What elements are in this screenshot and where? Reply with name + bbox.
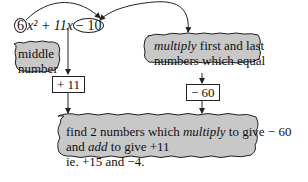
product-value-box: − 60 xyxy=(186,84,220,101)
arrow-to-multiply-cloud xyxy=(154,2,188,32)
constant-c-circled: − 10 xyxy=(73,18,104,33)
expression-middle: x² + 11x xyxy=(27,18,73,33)
middle-number-label: middle number xyxy=(18,46,58,76)
coefficient-a-circled: 6 xyxy=(14,18,27,33)
arrow-from-right-to-c xyxy=(100,2,154,20)
multiply-instruction: multiply first and last numbers which eq… xyxy=(154,38,265,68)
quadratic-expression: 6x² + 11x− 10 xyxy=(14,18,104,33)
middle-value-box: + 11 xyxy=(52,76,85,93)
bottom-instruction: find 2 numbers which multiply to give − … xyxy=(66,124,291,169)
